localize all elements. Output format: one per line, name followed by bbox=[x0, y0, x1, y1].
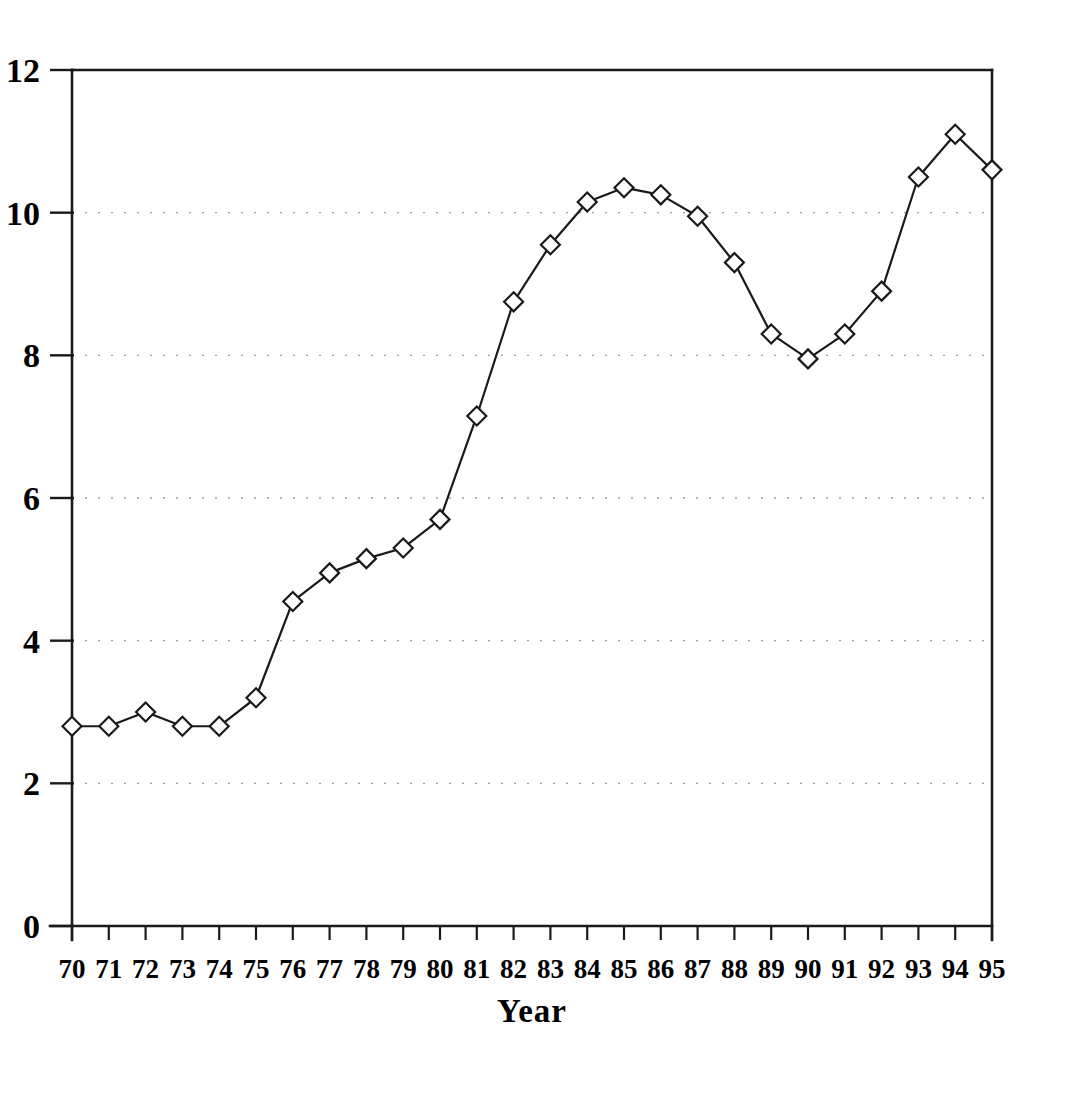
data-point-marker bbox=[247, 688, 266, 707]
y-axis-tick-label: 0 bbox=[23, 908, 40, 945]
data-point-marker bbox=[357, 549, 376, 568]
gridlines-group bbox=[72, 213, 992, 784]
data-point-marker bbox=[320, 563, 339, 582]
x-axis-tick-label: 95 bbox=[979, 954, 1006, 984]
data-point-marker bbox=[173, 717, 192, 736]
data-point-marker bbox=[651, 185, 670, 204]
x-axis-ticks bbox=[72, 926, 992, 940]
x-axis-tick-label: 91 bbox=[831, 954, 858, 984]
series-line bbox=[72, 134, 992, 726]
data-point-marker bbox=[762, 324, 781, 343]
x-axis-tick-label: 85 bbox=[611, 954, 638, 984]
data-point-marker bbox=[615, 178, 634, 197]
x-axis-tick-label: 92 bbox=[868, 954, 895, 984]
x-axis-tick-label: 75 bbox=[243, 954, 270, 984]
x-axis-tick-label: 88 bbox=[721, 954, 748, 984]
x-axis-tick-label: 89 bbox=[758, 954, 785, 984]
data-point-marker bbox=[394, 538, 413, 557]
x-axis-tick-label: 86 bbox=[647, 954, 674, 984]
x-axis-tick-label: 77 bbox=[316, 954, 343, 984]
x-axis-tick-label: 94 bbox=[942, 954, 969, 984]
y-axis-ticks bbox=[50, 70, 74, 926]
data-point-marker bbox=[799, 349, 818, 368]
y-axis-tick-label: 8 bbox=[23, 337, 40, 374]
x-axis-tick-label: 74 bbox=[206, 954, 233, 984]
data-point-marker bbox=[210, 717, 229, 736]
data-point-marker bbox=[99, 717, 118, 736]
line-chart: 024681012 707172737475767778798081828384… bbox=[0, 0, 1065, 1101]
data-point-marker bbox=[283, 592, 302, 611]
data-point-marker bbox=[467, 406, 486, 425]
x-axis-tick-labels: 7071727374757677787980818283848586878889… bbox=[59, 954, 1006, 984]
x-axis-title: Year bbox=[497, 993, 567, 1029]
chart-container: 024681012 707172737475767778798081828384… bbox=[0, 0, 1065, 1101]
x-axis-tick-label: 84 bbox=[574, 954, 601, 984]
x-axis-tick-label: 79 bbox=[390, 954, 417, 984]
x-axis-tick-label: 76 bbox=[279, 954, 306, 984]
x-axis-tick-label: 73 bbox=[169, 954, 196, 984]
data-point-marker bbox=[136, 703, 155, 722]
y-axis-tick-label: 10 bbox=[6, 195, 40, 232]
y-axis-tick-label: 2 bbox=[23, 765, 40, 802]
x-axis-tick-label: 87 bbox=[684, 954, 711, 984]
x-axis-tick-label: 82 bbox=[500, 954, 527, 984]
data-point-marker bbox=[63, 717, 82, 736]
x-axis-tick-label: 81 bbox=[463, 954, 490, 984]
x-axis-tick-label: 70 bbox=[59, 954, 86, 984]
x-axis-tick-label: 93 bbox=[905, 954, 932, 984]
y-axis-tick-label: 4 bbox=[23, 623, 40, 660]
x-axis-tick-label: 72 bbox=[132, 954, 159, 984]
x-axis-tick-label: 83 bbox=[537, 954, 564, 984]
y-axis-tick-labels: 024681012 bbox=[6, 52, 40, 945]
plot-frame bbox=[50, 70, 992, 940]
x-axis-tick-label: 78 bbox=[353, 954, 380, 984]
data-point-marker bbox=[504, 292, 523, 311]
data-series-group bbox=[63, 125, 1002, 736]
x-axis-tick-label: 80 bbox=[427, 954, 454, 984]
y-axis-tick-label: 6 bbox=[23, 480, 40, 517]
x-axis-tick-label: 90 bbox=[795, 954, 822, 984]
x-axis-tick-label: 71 bbox=[95, 954, 122, 984]
data-point-marker bbox=[431, 510, 450, 529]
y-axis-tick-label: 12 bbox=[6, 52, 40, 89]
